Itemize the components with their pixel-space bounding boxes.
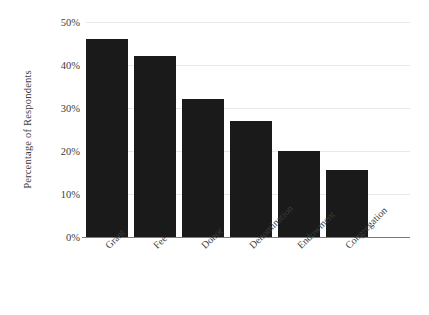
y-axis-tick-label: 20%: [20, 146, 80, 157]
bar: [134, 56, 176, 237]
plot-area: [86, 22, 410, 237]
y-axis-tick-label: 30%: [20, 103, 80, 114]
bar: [86, 39, 128, 237]
bar: [230, 121, 272, 237]
bar: [182, 99, 224, 237]
y-axis-tick-label: 10%: [20, 189, 80, 200]
y-axis-tick-label: 50%: [20, 17, 80, 28]
y-axis-tick-label: 40%: [20, 60, 80, 71]
y-axis-tick-label: 0%: [20, 232, 80, 243]
bar-chart: Percentage of Respondents 0%10%20%30%40%…: [0, 0, 429, 315]
